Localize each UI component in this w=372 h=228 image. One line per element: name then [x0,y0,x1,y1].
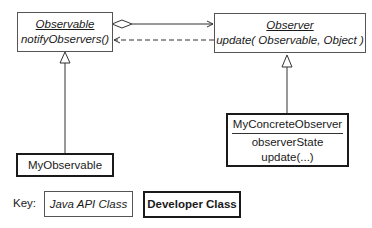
class-my-concrete-observer: MyConcreteObserver observerState update(… [226,113,349,167]
key-developer-class: Developer Class [143,191,241,218]
compartment-divider [232,133,343,134]
class-name: MyConcreteObserver [228,117,347,132]
class-observable: Observable notifyObservers() [17,12,113,52]
class-observer: Observer update( Observable, Object ) [214,13,366,53]
class-method: notifyObservers() [18,32,112,47]
class-attribute: observerState [228,135,347,150]
key-api-label: Java API Class [45,197,132,212]
class-my-observable: MyObservable [16,153,114,177]
class-method: update(...) [228,150,347,165]
key-java-api-class: Java API Class [44,191,133,217]
key-label: Key: [13,197,36,209]
class-name: Observer [215,18,365,33]
class-name: Observable [18,17,112,32]
class-method: update( Observable, Object ) [215,33,365,48]
generalization-triangle-icon [282,55,292,67]
key-dev-label: Developer Class [145,197,239,212]
class-name: MyObservable [18,158,112,173]
aggregation-diamond-icon [112,20,132,28]
generalization-triangle-icon [60,52,70,63]
